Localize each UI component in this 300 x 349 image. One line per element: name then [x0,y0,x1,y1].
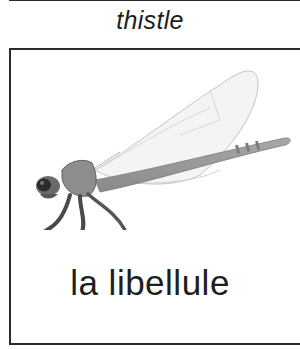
dragonfly-icon [0,0,300,230]
card-caption: la libellule [0,263,300,303]
